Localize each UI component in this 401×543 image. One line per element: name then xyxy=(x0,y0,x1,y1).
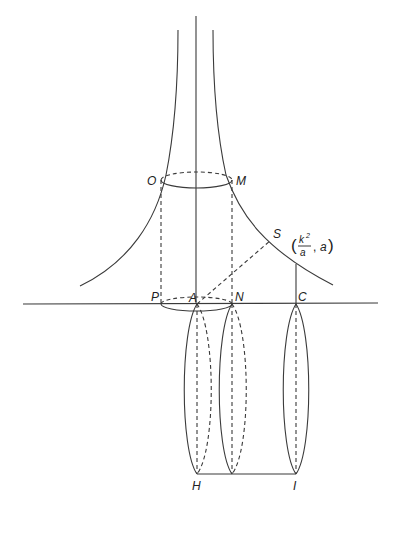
svg-text:,: , xyxy=(313,240,316,254)
label-M: M xyxy=(236,174,246,188)
label-N: N xyxy=(235,290,244,304)
svg-text:(: ( xyxy=(291,236,297,255)
radius-line-AS xyxy=(197,240,271,304)
label-I: I xyxy=(293,479,297,493)
hyperbola-solid-diagram: O M S P A N C H I ( k 2 a , a ) xyxy=(0,0,401,543)
ellipse-A-back xyxy=(197,304,211,474)
horizontal-axis xyxy=(23,303,378,304)
ellipse-A-front xyxy=(184,304,197,474)
svg-text:): ) xyxy=(328,236,334,255)
label-O: O xyxy=(147,174,156,188)
label-S: S xyxy=(273,227,281,241)
ellipse-N-back xyxy=(232,304,246,474)
left-hyperbola-curve xyxy=(80,30,178,286)
label-P: P xyxy=(151,290,159,304)
svg-text:2: 2 xyxy=(305,232,310,239)
ellipse-C-left xyxy=(283,304,296,474)
point-coordinate-annotation: ( k 2 a , a ) xyxy=(291,232,334,258)
label-H: H xyxy=(192,479,201,493)
svg-text:a: a xyxy=(300,247,306,258)
ellipse-C-right xyxy=(296,304,309,474)
label-A: A xyxy=(188,291,197,305)
svg-text:a: a xyxy=(320,240,327,254)
svg-text:k: k xyxy=(299,234,305,245)
ellipse-N-front xyxy=(219,304,232,474)
label-C: C xyxy=(298,290,307,304)
